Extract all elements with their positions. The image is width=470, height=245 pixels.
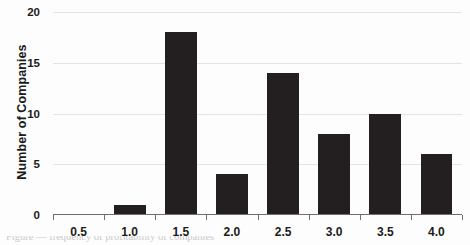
bar bbox=[421, 154, 453, 215]
x-tick-mark bbox=[155, 215, 156, 220]
x-axis-line bbox=[53, 214, 462, 215]
x-tick-mark bbox=[411, 215, 412, 220]
bar bbox=[267, 73, 299, 215]
x-tick-mark bbox=[206, 215, 207, 220]
cropped-caption-strip: Figure — frequency of profitability of c… bbox=[0, 236, 470, 245]
cropped-caption-text: Figure — frequency of profitability of c… bbox=[6, 236, 214, 242]
x-tick-mark bbox=[309, 215, 310, 220]
x-tick-mark bbox=[53, 215, 54, 220]
bar bbox=[318, 134, 350, 215]
gridline bbox=[53, 12, 462, 13]
bar bbox=[165, 32, 197, 215]
y-tick-label: 5 bbox=[0, 158, 40, 170]
x-tick-mark bbox=[360, 215, 361, 220]
y-tick-label: 10 bbox=[0, 108, 40, 120]
bar bbox=[216, 174, 248, 215]
x-tick-mark bbox=[104, 215, 105, 220]
y-tick-label: 15 bbox=[0, 57, 40, 69]
plot-area: 05101520 0.51.01.52.02.53.03.54.0 bbox=[53, 12, 462, 215]
bar bbox=[369, 114, 401, 216]
x-tick-mark bbox=[258, 215, 259, 220]
y-tick-label: 0 bbox=[0, 209, 40, 221]
gridline bbox=[53, 63, 462, 64]
x-tick-mark bbox=[462, 215, 463, 220]
y-tick-label: 20 bbox=[0, 6, 40, 18]
bar-chart-figure: Number of Companies 05101520 0.51.01.52.… bbox=[0, 0, 470, 245]
